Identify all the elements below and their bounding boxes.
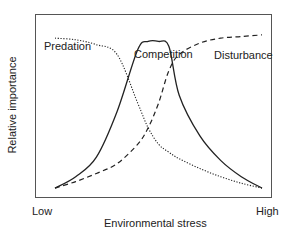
competition-label: Competition — [134, 48, 193, 60]
predation-label: Predation — [44, 40, 91, 52]
disturbance-label: Disturbance — [214, 49, 273, 61]
chart-canvas — [0, 0, 289, 234]
x-tick-high: High — [256, 205, 279, 217]
x-tick-low: Low — [32, 205, 52, 217]
competition-curve — [55, 41, 262, 189]
y-axis-label: Relative importance — [6, 56, 18, 153]
x-axis-label: Environmental stress — [104, 217, 207, 229]
